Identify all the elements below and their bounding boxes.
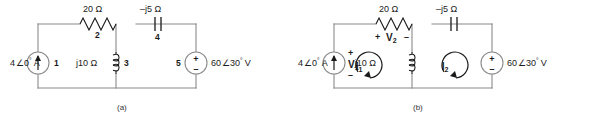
- node-label-3: 3: [124, 58, 129, 68]
- resistor-icon-a: [80, 18, 116, 30]
- circuit-diagram-b: 4∠0°A + V1 – 20 Ω + V2 – j10 Ω: [296, 0, 592, 123]
- inductor-icon-b: [409, 52, 415, 74]
- voltage-source-label-a: 60∠30°V: [211, 57, 251, 68]
- panel-caption-a: (a): [117, 103, 127, 112]
- resistor-value-label-b: 20 Ω: [379, 4, 399, 14]
- voltage-plus-sign-b: +: [489, 54, 494, 64]
- i2-label: I2: [442, 61, 449, 73]
- v1-minus-sign: –: [348, 70, 353, 80]
- voltage-source-icon-a: + –: [185, 52, 207, 74]
- capacitor-value-label-b: –j5 Ω: [436, 4, 458, 14]
- capacitor-value-label-a: –j5 Ω: [140, 4, 162, 14]
- v2-label: V2: [386, 32, 397, 44]
- voltage-source-label-b: 60∠30°V: [507, 57, 547, 68]
- voltage-minus-sign-a: –: [193, 64, 198, 74]
- v2-plus-sign: +: [375, 32, 380, 42]
- node-label-2: 2: [95, 30, 100, 40]
- inductor-icon-a: [113, 52, 119, 74]
- voltage-plus-sign-a: +: [193, 54, 198, 64]
- node-label-4: 4: [155, 32, 160, 42]
- node-label-1: 1: [54, 58, 59, 68]
- inductor-value-label-a: j10 Ω: [75, 58, 98, 68]
- current-source-label-b: 4∠0°A: [298, 57, 328, 68]
- figure-sheet: 4∠0°A 1 20 Ω 2 j10 Ω 3: [0, 0, 592, 123]
- node-label-5: 5: [176, 58, 181, 68]
- current-source-label-a: 4∠0°A: [10, 57, 40, 68]
- v2-minus-sign: –: [404, 32, 409, 42]
- resistor-icon-b: [376, 18, 412, 30]
- circuit-diagram-a: 4∠0°A 1 20 Ω 2 j10 Ω 3: [0, 0, 296, 123]
- voltage-source-icon-b: + –: [481, 52, 503, 74]
- resistor-value-label-a: 20 Ω: [83, 4, 103, 14]
- panel-caption-b: (b): [413, 103, 423, 112]
- v1-plus-sign: +: [348, 48, 353, 58]
- circuit-panel-b: 4∠0°A + V1 – 20 Ω + V2 – j10 Ω: [296, 0, 592, 123]
- circuit-panel-a: 4∠0°A 1 20 Ω 2 j10 Ω 3: [0, 0, 296, 123]
- voltage-minus-sign-b: –: [489, 64, 494, 74]
